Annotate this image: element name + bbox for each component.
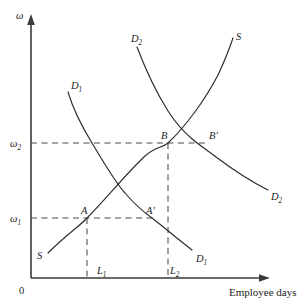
axes-group [27,14,270,282]
origin-label: 0 [19,285,24,296]
point-label-B-prime: B′ [209,130,218,141]
guide-lines-group [31,143,207,278]
wage-tick-w1: ω1 [10,213,21,227]
curves-group [48,38,268,253]
quantity-tick-L1: L1 [96,265,106,279]
supply-curve [48,38,233,253]
supply-curve-label-bottom: S [37,250,43,261]
demand-curve-2-label-right: D2 [270,191,283,205]
employee-days-axis-label: Employee days [229,286,297,298]
point-label-A: A [80,205,88,216]
quantity-tick-L2: L2 [169,265,180,279]
supply-demand-diagram: ω2 ω1 L1 L2 D1 D1 D2 D2 S S A A′ B [0,0,308,304]
demand-curve-1-label-bottom: D1 [195,253,207,267]
employee-days-axis-arrow [259,274,270,282]
wage-tick-labels: ω2 ω1 [10,138,21,227]
point-label-A-prime: A′ [145,205,155,216]
supply-curve-label-top: S [236,31,242,42]
wage-axis-label: ω [16,10,23,21]
demand-curve-2 [137,47,268,190]
wage-axis-arrow [27,14,35,25]
demand-curve-1-label-top: D1 [70,80,82,94]
quantity-tick-labels: L1 L2 [96,265,180,279]
axis-titles-group: ω Employee days 0 [16,10,297,298]
diagram-canvas: ω2 ω1 L1 L2 D1 D1 D2 D2 S S A A′ B [0,0,308,304]
point-label-B: B [161,130,168,141]
demand-curve-2-label-top: D2 [130,33,143,47]
curve-labels-group: D1 D1 D2 D2 S S [37,31,283,267]
wage-tick-w2: ω2 [10,138,21,152]
